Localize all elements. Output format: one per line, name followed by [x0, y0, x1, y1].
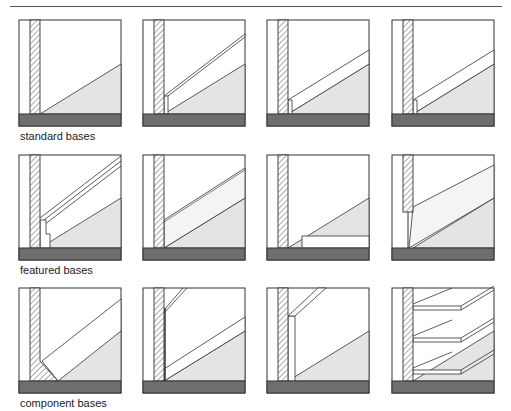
panel-1-1 [19, 20, 121, 126]
caption-standard-bases: standard bases [20, 130, 95, 142]
panel-1-3 [267, 20, 369, 126]
panel-1-4 [392, 20, 494, 126]
panel-2-4 [392, 155, 494, 260]
panel-2-1 [19, 155, 121, 260]
caption-component-bases: component bases [20, 397, 107, 409]
panel-3-4 [392, 286, 494, 393]
panel-1-2 [143, 20, 245, 126]
caption-featured-bases: featured bases [20, 264, 93, 276]
panel-3-1 [19, 288, 121, 393]
panel-3-3 [267, 288, 369, 393]
panel-3-2 [143, 288, 245, 393]
panel-2-2 [143, 155, 245, 260]
panel-2-3 [267, 155, 369, 260]
skirting-base-diagram [0, 0, 511, 411]
